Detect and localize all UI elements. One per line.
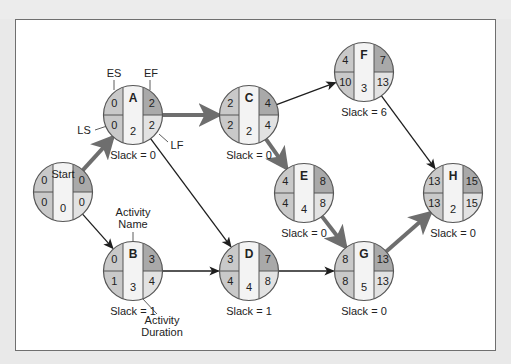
ef-value: 0 bbox=[79, 174, 85, 186]
ef-value: 15 bbox=[466, 175, 478, 187]
node-start: 0000Start0 bbox=[34, 163, 93, 222]
slack-label: Slack = 1 bbox=[110, 305, 156, 317]
lf-value: 15 bbox=[466, 197, 478, 209]
activity-name: H bbox=[449, 169, 458, 183]
ls-value: 10 bbox=[339, 76, 351, 88]
slack-label: Slack = 1 bbox=[226, 305, 272, 317]
ef-legend-label: EF bbox=[144, 67, 158, 79]
activity-name-legend-line2: Name bbox=[118, 218, 147, 230]
lf-value: 0 bbox=[79, 196, 85, 208]
lf-value: 8 bbox=[265, 275, 271, 287]
ef-value: 3 bbox=[149, 253, 155, 265]
ef-value: 8 bbox=[320, 175, 326, 187]
es-value: 3 bbox=[227, 253, 233, 265]
slack-label: Slack = 0 bbox=[226, 149, 272, 161]
lf-value: 2 bbox=[149, 119, 155, 131]
ls-value: 1 bbox=[111, 275, 117, 287]
nodes-layer: 0000Start00202A2Slack = 00314B3Slack = 1… bbox=[34, 43, 483, 317]
ls-leader bbox=[95, 126, 107, 130]
es-value: 2 bbox=[227, 97, 233, 109]
duration-value: 3 bbox=[361, 82, 367, 94]
ef-value: 7 bbox=[265, 253, 271, 265]
activity-name: C bbox=[245, 91, 254, 105]
lf-legend-label: LF bbox=[171, 139, 184, 151]
edge-a-to-d bbox=[151, 139, 231, 247]
es-value: 8 bbox=[342, 253, 348, 265]
ef-value: 7 bbox=[380, 54, 386, 66]
network-diagram: ESEFLSLFActivityNameActivityDuration 000… bbox=[0, 0, 511, 364]
duration-value: 2 bbox=[450, 203, 456, 215]
duration-value: 0 bbox=[60, 202, 66, 214]
edge-f-to-h bbox=[381, 96, 434, 169]
node-g: 813813G5Slack = 0 bbox=[335, 242, 394, 317]
es-value: 0 bbox=[111, 97, 117, 109]
ef-value: 2 bbox=[149, 97, 155, 109]
edge-g-to-h-critical bbox=[386, 213, 430, 251]
duration-value: 5 bbox=[361, 281, 367, 293]
node-c: 2424C2Slack = 0 bbox=[220, 86, 279, 161]
lf-leader bbox=[159, 134, 168, 142]
ef-value: 4 bbox=[265, 97, 271, 109]
lf-value: 13 bbox=[377, 76, 389, 88]
lf-value: 8 bbox=[320, 197, 326, 209]
lf-value: 4 bbox=[149, 275, 155, 287]
duration-value: 2 bbox=[246, 125, 252, 137]
node-a: 0202A2Slack = 0 bbox=[104, 86, 163, 161]
edge-c-to-f bbox=[277, 83, 336, 105]
node-b: 0314B3Slack = 1 bbox=[104, 242, 163, 317]
ls-value: 0 bbox=[41, 196, 47, 208]
activity-name: E bbox=[300, 169, 308, 183]
activity-name: Start bbox=[51, 168, 74, 180]
node-h: 13151315H2Slack = 0 bbox=[424, 164, 483, 239]
slack-label: Slack = 0 bbox=[110, 149, 156, 161]
ls-value: 0 bbox=[111, 119, 117, 131]
node-d: 3748D4Slack = 1 bbox=[220, 242, 279, 317]
duration-value: 2 bbox=[130, 125, 136, 137]
ls-value: 13 bbox=[428, 197, 440, 209]
node-e: 4848E4Slack = 0 bbox=[275, 164, 334, 239]
activity-duration-legend-line2: Duration bbox=[141, 326, 183, 338]
es-value: 0 bbox=[111, 253, 117, 265]
lf-value: 13 bbox=[377, 275, 389, 287]
activity-name-legend-line1: Activity bbox=[116, 206, 151, 218]
slack-label: Slack = 0 bbox=[341, 305, 387, 317]
activity-name: F bbox=[360, 48, 367, 62]
activity-name: G bbox=[359, 247, 368, 261]
ls-value: 4 bbox=[282, 197, 288, 209]
duration-value: 4 bbox=[246, 281, 252, 293]
slack-label: Slack = 6 bbox=[341, 106, 387, 118]
slack-label: Slack = 0 bbox=[430, 227, 476, 239]
es-value: 4 bbox=[282, 175, 288, 187]
ls-value: 4 bbox=[227, 275, 233, 287]
node-f: 471013F3Slack = 6 bbox=[335, 43, 394, 118]
activity-name: A bbox=[129, 91, 138, 105]
slack-label: Slack = 0 bbox=[281, 227, 327, 239]
ls-legend-label: LS bbox=[77, 124, 90, 136]
activity-name: B bbox=[129, 247, 138, 261]
edge-start-to-a-critical bbox=[83, 138, 113, 171]
ls-value: 8 bbox=[342, 275, 348, 287]
es-value: 4 bbox=[342, 54, 348, 66]
lf-value: 4 bbox=[265, 119, 271, 131]
es-value: 13 bbox=[428, 175, 440, 187]
activity-name: D bbox=[245, 247, 254, 261]
es-legend-label: ES bbox=[107, 67, 122, 79]
edge-start-to-b bbox=[83, 214, 113, 248]
es-value: 0 bbox=[41, 174, 47, 186]
duration-value: 4 bbox=[301, 203, 307, 215]
ef-value: 13 bbox=[377, 253, 389, 265]
ls-value: 2 bbox=[227, 119, 233, 131]
duration-value: 3 bbox=[130, 281, 136, 293]
